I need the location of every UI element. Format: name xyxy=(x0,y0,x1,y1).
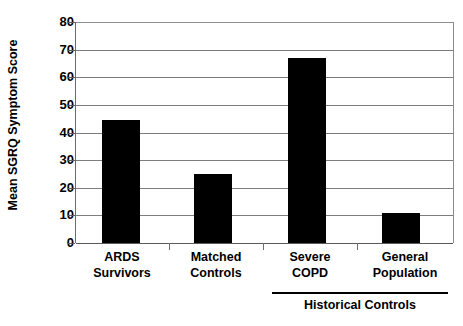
x-category-general-population-line1: General xyxy=(357,249,453,265)
bar-matched-controls xyxy=(194,174,232,243)
x-category-severe-copd-line1: Severe xyxy=(263,249,357,265)
bar-chart-figure: Mean SGRQ Symptom Score 80 70 60 50 40 3… xyxy=(0,0,463,326)
x-category-ards-survivors-line1: ARDS xyxy=(75,249,169,265)
y-tick-label-10: 10 xyxy=(40,207,74,223)
y-tick-label-20: 20 xyxy=(40,180,74,196)
plot-area xyxy=(75,22,454,243)
x-category-matched-controls-line1: Matched xyxy=(169,249,263,265)
x-category-general-population: General Population xyxy=(357,249,453,281)
y-tick-label-70: 70 xyxy=(40,42,74,58)
y-tick-mark-20 xyxy=(68,188,75,189)
gridline-0-axis xyxy=(76,243,453,244)
y-axis-title: Mean SGRQ Symptom Score xyxy=(0,0,26,250)
y-tick-mark-60 xyxy=(68,77,75,78)
x-category-general-population-line2: Population xyxy=(357,265,453,281)
bar-general-population xyxy=(382,213,420,243)
y-tick-label-40: 40 xyxy=(40,125,74,141)
historical-controls-label: Historical Controls xyxy=(272,296,448,314)
y-tick-mark-0 xyxy=(68,243,75,244)
x-category-severe-copd: Severe COPD xyxy=(263,249,357,281)
bar-ards-survivors xyxy=(102,120,140,243)
y-tick-label-60: 60 xyxy=(40,69,74,85)
y-tick-label-50: 50 xyxy=(40,97,74,113)
gridline-80 xyxy=(76,22,453,23)
x-category-matched-controls: Matched Controls xyxy=(169,249,263,281)
y-tick-label-80: 80 xyxy=(40,14,74,30)
x-category-ards-survivors: ARDS Survivors xyxy=(75,249,169,281)
gridline-50 xyxy=(76,105,453,106)
x-category-severe-copd-line2: COPD xyxy=(263,265,357,281)
y-axis-title-text: Mean SGRQ Symptom Score xyxy=(6,40,20,211)
y-tick-mark-30 xyxy=(68,160,75,161)
y-tick-mark-70 xyxy=(68,50,75,51)
y-tick-label-0: 0 xyxy=(40,235,74,251)
gridline-70 xyxy=(76,50,453,51)
gridline-60 xyxy=(76,77,453,78)
y-tick-mark-10 xyxy=(68,215,75,216)
y-tick-mark-40 xyxy=(68,133,75,134)
x-category-matched-controls-line2: Controls xyxy=(169,265,263,281)
x-category-ards-survivors-line2: Survivors xyxy=(75,265,169,281)
y-tick-label-30: 30 xyxy=(40,152,74,168)
bar-severe-copd xyxy=(288,58,326,243)
historical-controls-bracket-line xyxy=(272,292,448,294)
y-tick-mark-50 xyxy=(68,105,75,106)
y-tick-mark-80 xyxy=(68,22,75,23)
